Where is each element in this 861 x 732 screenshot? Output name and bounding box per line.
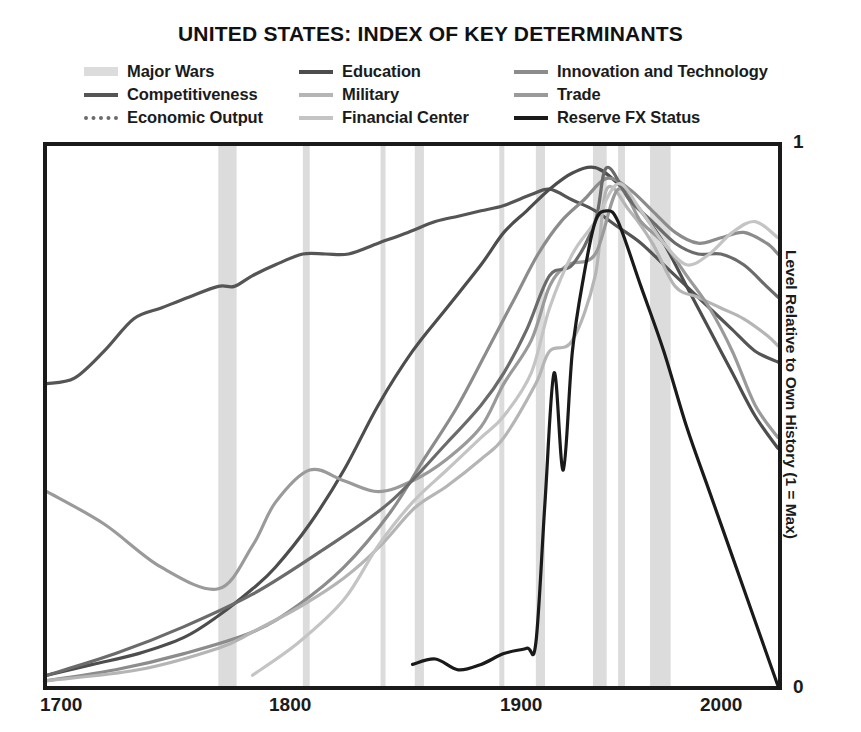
legend-item-label: Major Wars [127,62,214,81]
legend-item-competitiveness[interactable]: Competitiveness [84,83,299,106]
legend-item-reserve-fx-status[interactable]: Reserve FX Status [514,106,784,129]
x-tick-1700: 1700 [40,694,82,716]
chart-page: UNITED STATES: INDEX OF KEY DETERMINANTS… [0,0,861,732]
legend-swatch-icon [84,67,118,76]
legend-swatch-icon [84,93,118,97]
legend-item-military[interactable]: Military [299,83,514,106]
series-line-financial-center [253,184,778,676]
legend-item-label: Military [342,85,399,104]
chart-legend: Major WarsEducationInnovation and Techno… [84,60,784,129]
legend-item-label: Education [342,62,421,81]
x-tick-2000: 2000 [700,694,742,716]
legend-swatch-icon [514,70,548,74]
x-tick-1900: 1900 [500,694,542,716]
legend-item-label: Financial Center [342,108,469,127]
legend-item-financial-center[interactable]: Financial Center [299,106,514,129]
war-band [381,146,386,686]
x-tick-1800: 1800 [269,694,311,716]
chart-svg [43,142,782,690]
legend-item-label: Trade [557,85,601,104]
legend-swatch-icon [514,116,548,120]
legend-item-label: Reserve FX Status [557,108,700,127]
legend-swatch-icon [84,116,118,120]
plot-area [43,142,782,690]
y-tick-max: 1 [793,131,804,153]
legend-swatch-icon [299,116,333,120]
legend-item-label: Competitiveness [127,85,258,104]
legend-item-label: Innovation and Technology [557,62,768,81]
legend-item-innovation-and-technology[interactable]: Innovation and Technology [514,60,784,83]
y-axis-title: Level Relative to Own History (1 = Max) [782,250,800,580]
major-wars-bands [218,146,670,686]
page-title: UNITED STATES: INDEX OF KEY DETERMINANTS [0,22,861,46]
legend-swatch-icon [299,70,333,74]
legend-swatch-icon [514,93,548,97]
legend-item-trade[interactable]: Trade [514,83,784,106]
legend-swatch-icon [299,93,333,97]
y-tick-min: 0 [793,676,804,698]
legend-item-education[interactable]: Education [299,60,514,83]
legend-item-major-wars[interactable]: Major Wars [84,60,299,83]
legend-item-economic-output[interactable]: Economic Output [84,106,299,129]
legend-item-label: Economic Output [127,108,263,127]
